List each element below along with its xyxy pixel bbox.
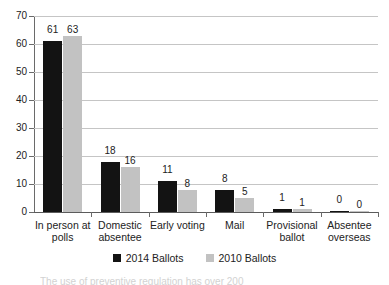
bar-value-label: 8: [175, 179, 199, 189]
y-tick-label-holder: 10: [0, 179, 27, 189]
bar-group: 85: [215, 16, 254, 212]
y-tick-label: 70: [1, 11, 27, 21]
bar-group: 11: [273, 16, 312, 212]
cropped-caption-text: The use of preventive regulation has ove…: [40, 276, 340, 285]
x-category-label: In person at polls: [32, 219, 93, 243]
bar-chart-figure: 010203040506070 61631816118851100 In per…: [0, 0, 389, 285]
x-tick-mark: [321, 212, 322, 217]
y-tick-label-holder: 60: [0, 39, 27, 49]
gridline: [34, 72, 378, 73]
bar: [330, 211, 349, 212]
y-tick-label-holder: 20: [0, 151, 27, 161]
legend-entry: 2014 Ballots: [113, 252, 184, 264]
y-tick-label: 30: [1, 123, 27, 133]
bar-value-label: 1: [290, 198, 314, 208]
y-tick-label: 40: [1, 95, 27, 105]
bar-value-label: 16: [118, 156, 142, 166]
bar-value-label: 0: [347, 200, 371, 210]
bar: [43, 41, 62, 212]
bar: [293, 209, 312, 212]
y-tick-label-holder: 40: [0, 95, 27, 105]
bar-group: 1816: [101, 16, 140, 212]
x-tick-mark: [206, 212, 207, 217]
x-category-label: Domestic absentee: [89, 219, 150, 243]
gridline: [34, 184, 378, 185]
y-tick-label: 0: [1, 207, 27, 217]
chart-legend: 2014 Ballots2010 Ballots: [0, 252, 389, 264]
x-category-label: Early voting: [147, 219, 208, 231]
gridline: [34, 128, 378, 129]
x-tick-mark: [149, 212, 150, 217]
y-tick-label: 20: [1, 151, 27, 161]
legend-label: 2014 Ballots: [126, 252, 184, 264]
bar: [215, 190, 234, 212]
x-tick-mark: [378, 212, 379, 217]
bar: [235, 198, 254, 212]
bar-group: 00: [330, 16, 369, 212]
gridline: [34, 100, 378, 101]
bar: [350, 211, 369, 212]
bar-group: 6163: [43, 16, 82, 212]
bar-value-label: 5: [233, 187, 257, 197]
y-tick-label: 60: [1, 39, 27, 49]
y-tick-label: 10: [1, 179, 27, 189]
bar: [273, 209, 292, 212]
y-tick-label-holder: 0: [0, 207, 27, 217]
bar-value-label: 11: [155, 165, 179, 175]
legend-entry: 2010 Ballots: [206, 252, 277, 264]
gridline: [34, 156, 378, 157]
bar: [63, 36, 82, 212]
x-tick-mark: [91, 212, 92, 217]
bar: [178, 190, 197, 212]
y-tick-label: 50: [1, 67, 27, 77]
gridline: [34, 16, 378, 17]
legend-swatch-icon: [113, 254, 121, 262]
legend-swatch-icon: [206, 254, 214, 262]
gridline: [34, 44, 378, 45]
bar-value-label: 8: [213, 174, 237, 184]
bar-value-label: 63: [61, 25, 85, 35]
bar: [101, 162, 120, 212]
bar-group: 118: [158, 16, 197, 212]
x-category-label: Provisional ballot: [261, 219, 322, 243]
x-category-label: Absentee overseas: [319, 219, 380, 243]
bar: [121, 167, 140, 212]
bar: [158, 181, 177, 212]
y-tick-label-holder: 30: [0, 123, 27, 133]
plot-area: 61631816118851100: [34, 16, 378, 212]
legend-label: 2010 Ballots: [219, 252, 277, 264]
x-tick-mark: [263, 212, 264, 217]
x-category-label: Mail: [204, 219, 265, 231]
bar-value-label: 18: [98, 146, 122, 156]
y-tick-label-holder: 70: [0, 11, 27, 21]
y-tick-label-holder: 50: [0, 67, 27, 77]
